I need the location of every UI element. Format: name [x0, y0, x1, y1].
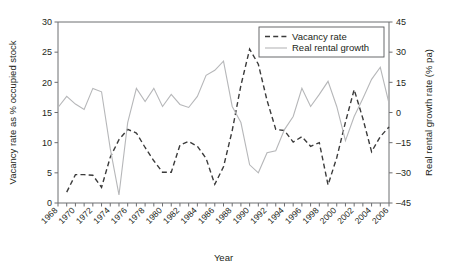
x-ticklabel: 1998: [300, 205, 321, 226]
y-ticklabel-right: 15: [396, 78, 406, 88]
y-ticklabel-right: –15: [396, 138, 411, 148]
y-ticklabel-left: 5: [47, 168, 52, 178]
x-ticklabel: 1974: [91, 205, 112, 226]
y-ticklabel-right: –30: [396, 168, 411, 178]
x-ticklabel: 2004: [353, 205, 374, 226]
x-ticklabel: 1978: [126, 205, 147, 226]
x-ticklabel: 2000: [318, 205, 339, 226]
x-ticklabel: 1996: [283, 205, 304, 226]
x-ticklabel: 2006: [370, 205, 391, 226]
x-ticklabel: 2002: [335, 205, 356, 226]
y-ticklabel-right: 30: [396, 47, 406, 57]
line-chart: 051015202530–45–30–150153045196819701972…: [0, 0, 451, 268]
y-ticklabel-left: 10: [42, 138, 52, 148]
series-path-2: [58, 61, 389, 195]
x-ticklabel: 1976: [109, 205, 130, 226]
x-ticklabel: 1992: [248, 205, 269, 226]
y-ticklabel-left: 15: [42, 108, 52, 118]
x-ticklabel: 1994: [265, 205, 286, 226]
x-ticklabel: 1968: [39, 205, 60, 226]
y-ticklabel-left: 20: [42, 78, 52, 88]
y-ticklabel-right: 0: [396, 108, 401, 118]
y-ticklabel-right: –45: [396, 198, 411, 208]
chart-container: 051015202530–45–30–150153045196819701972…: [0, 0, 451, 268]
y-ticklabel-left: 25: [42, 47, 52, 57]
y-ticklabel-left: 30: [42, 17, 52, 27]
x-ticklabel: 1988: [213, 205, 234, 226]
y-ticklabel-right: 45: [396, 17, 406, 27]
x-ticklabel: 1982: [161, 205, 182, 226]
legend-label-1: Vacancy rate: [292, 31, 347, 42]
x-axis-title: Year: [214, 252, 233, 263]
legend-label-2: Real rental growth: [292, 42, 369, 53]
x-ticklabel: 1986: [196, 205, 217, 226]
x-ticklabel: 1990: [231, 205, 252, 226]
y-axis-right-title: Real rental growth rate (% pa): [423, 49, 434, 176]
x-ticklabel: 1984: [178, 205, 199, 226]
x-ticklabel: 1970: [56, 205, 77, 226]
x-ticklabel: 1980: [143, 205, 164, 226]
y-axis-left-title: Vacancy rate as % occupied stock: [7, 40, 18, 184]
x-ticklabel: 1972: [74, 205, 95, 226]
